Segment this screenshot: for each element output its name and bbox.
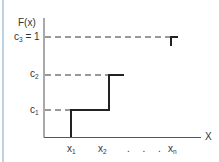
step-segment-n [171, 37, 178, 46]
xn-label: xn [168, 143, 177, 155]
step-segment-1 [71, 75, 124, 137]
x-axis-label: X [205, 131, 212, 142]
x2-label: x2 [98, 143, 107, 155]
c3-label: c3 = 1 [14, 31, 40, 43]
ellipsis: . . . [127, 143, 166, 154]
c2-label: c2 [30, 68, 39, 80]
x1-label: x1 [67, 143, 76, 155]
y-axis-label: F(x) [18, 17, 36, 28]
c1-label: c1 [30, 104, 39, 116]
cdf-step-diagram: F(x) c3 = 1 c2 c1 x1 x2 . . . xn X [0, 0, 219, 162]
